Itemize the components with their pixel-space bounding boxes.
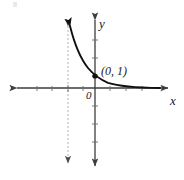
x-axis-label: x xyxy=(170,94,176,107)
exponential-curve xyxy=(70,26,160,88)
point-coordinate-label: (0, 1) xyxy=(101,65,127,77)
exponential-decay-graph-figure: y x 0 (0, 1) xyxy=(0,0,184,180)
y-axis xyxy=(92,20,98,166)
point-marker-0-1 xyxy=(92,73,97,78)
y-axis-label: y xyxy=(99,17,105,30)
graph-canvas xyxy=(0,0,184,180)
origin-label: 0 xyxy=(86,90,92,101)
